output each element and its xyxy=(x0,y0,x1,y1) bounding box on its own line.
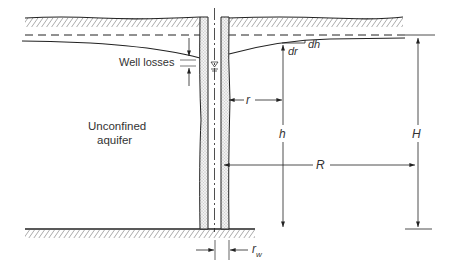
aquifer-label-line1: Unconfined xyxy=(88,120,146,132)
rw-label: rw xyxy=(252,242,263,259)
impermeable-base xyxy=(25,229,255,238)
h-label: h xyxy=(279,127,286,141)
well-wall-right xyxy=(221,17,230,229)
well-wall-left xyxy=(200,17,208,229)
r-label: r xyxy=(246,93,251,107)
R-label: R xyxy=(316,158,325,172)
well-losses-label: Well losses xyxy=(119,56,175,68)
H-label: H xyxy=(412,127,421,141)
dr-label: dr xyxy=(288,45,299,57)
aquifer-diagram: Well losses Unconfined aquifer r h dr dh… xyxy=(0,0,456,279)
aquifer-label-line2: aquifer xyxy=(97,134,132,146)
ground-surface-right xyxy=(228,17,403,27)
ground-surface-left xyxy=(25,17,200,27)
dh-label: dh xyxy=(308,38,320,50)
